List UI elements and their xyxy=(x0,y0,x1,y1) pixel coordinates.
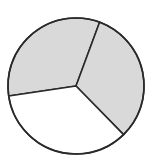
fraction-circle-diagram xyxy=(0,0,154,168)
